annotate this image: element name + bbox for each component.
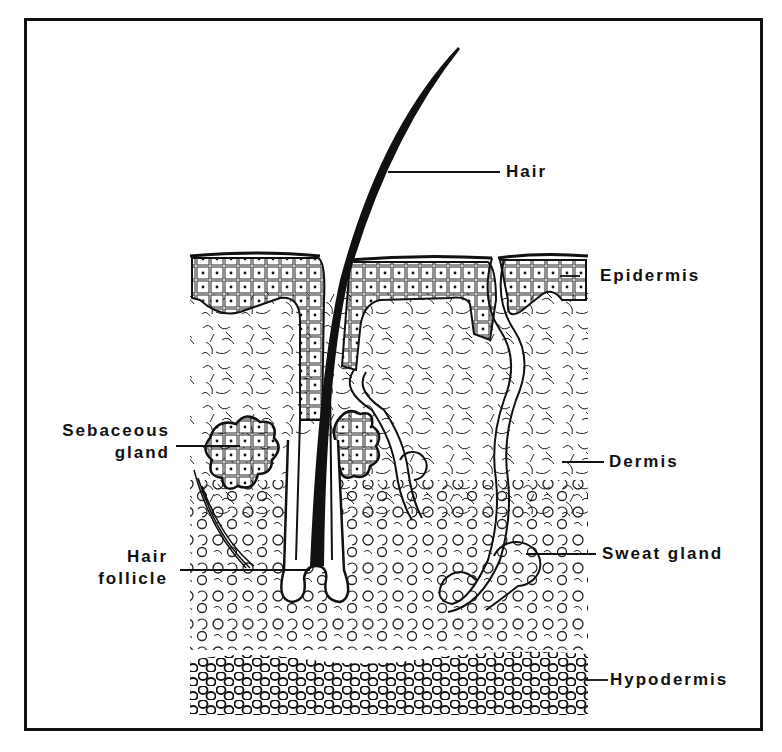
label-dermis: Dermis: [609, 451, 679, 473]
label-sweat-gland: Sweat gland: [602, 543, 723, 565]
label-hair: Hair: [506, 161, 547, 183]
label-epidermis: Epidermis: [600, 265, 700, 287]
label-hair-follicle-line1: Hair: [40, 546, 168, 568]
skin-layers: [190, 290, 588, 715]
hypodermis-fat: [190, 652, 588, 715]
label-hair-follicle: Hair follicle: [40, 546, 168, 590]
dermis-loose-tissue: [190, 480, 588, 650]
label-sebaceous-line2: gland: [40, 442, 170, 464]
label-hypodermis: Hypodermis: [610, 669, 728, 691]
label-sebaceous-line1: Sebaceous: [40, 420, 170, 442]
label-sebaceous-gland: Sebaceous gland: [40, 420, 170, 464]
label-hair-follicle-line2: follicle: [40, 568, 168, 590]
skin-cross-section-illustration: [0, 0, 782, 752]
